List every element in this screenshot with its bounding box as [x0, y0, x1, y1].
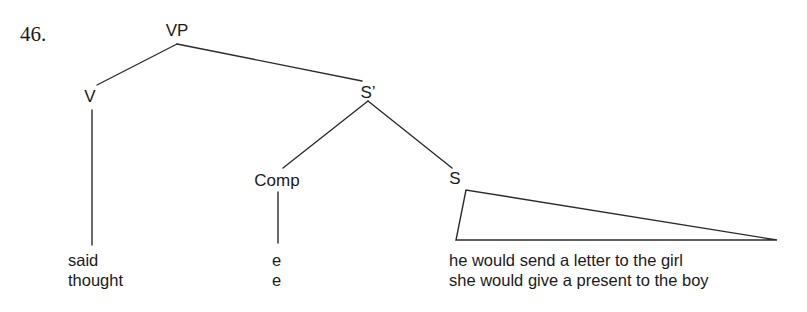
syntax-tree-figure: 46. VP V S’ Comp S said thought e e he w… — [0, 0, 807, 312]
edge-vp-sbar — [177, 44, 362, 81]
node-label-vp: VP — [166, 22, 189, 39]
s-expansion-triangle — [456, 190, 777, 240]
terminal-group-verb: said thought — [68, 250, 123, 290]
edge-sbar-comp — [283, 101, 368, 168]
terminal-verb-line-2: thought — [68, 270, 123, 290]
edge-sbar-s — [368, 101, 452, 168]
node-label-s: S — [449, 170, 460, 187]
terminal-group-sentence: he would send a letter to the girl she w… — [449, 250, 709, 290]
terminal-comp-line-1: e — [272, 250, 281, 270]
terminal-comp-line-2: e — [272, 270, 281, 290]
node-label-comp: Comp — [254, 172, 299, 189]
terminal-group-complementizer: e e — [272, 250, 281, 290]
edge-group — [92, 44, 452, 245]
node-label-s-bar: S’ — [360, 84, 375, 101]
terminal-verb-line-1: said — [68, 250, 123, 270]
edge-vp-v — [97, 44, 177, 85]
terminal-sentence-line-1: he would send a letter to the girl — [449, 250, 709, 270]
node-label-v: V — [84, 88, 95, 105]
terminal-sentence-line-2: she would give a present to the boy — [449, 270, 709, 290]
